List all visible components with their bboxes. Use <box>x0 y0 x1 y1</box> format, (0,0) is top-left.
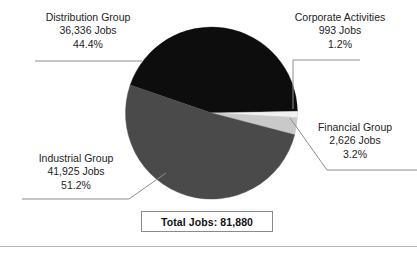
label-corporate-activities: Corporate Activities 993 Jobs 1.2% <box>272 11 408 51</box>
total-jobs-text: Total Jobs: 81,880 <box>161 216 253 228</box>
bottom-divider <box>0 246 417 247</box>
label-industrial-group: Industrial Group 41,925 Jobs 51.2% <box>12 152 140 192</box>
label-distribution-name: Distribution Group <box>18 11 158 24</box>
label-industrial-name: Industrial Group <box>12 152 140 165</box>
label-corporate-percent: 1.2% <box>272 38 408 51</box>
label-distribution-group: Distribution Group 36,336 Jobs 44.4% <box>18 11 158 51</box>
leader-line-corporate <box>293 60 360 109</box>
label-corporate-jobs: 993 Jobs <box>272 24 408 37</box>
label-distribution-jobs: 36,336 Jobs <box>18 24 158 37</box>
total-jobs-box: Total Jobs: 81,880 <box>141 211 273 232</box>
pie-chart-figure: Distribution Group 36,336 Jobs 44.4% Cor… <box>0 0 417 254</box>
label-financial-group: Financial Group 2,626 Jobs 3.2% <box>296 121 414 161</box>
label-distribution-percent: 44.4% <box>18 38 158 51</box>
label-financial-name: Financial Group <box>296 121 414 134</box>
label-industrial-percent: 51.2% <box>12 179 140 192</box>
label-industrial-jobs: 41,925 Jobs <box>12 165 140 178</box>
pie-slices <box>125 27 297 199</box>
label-corporate-name: Corporate Activities <box>272 11 408 24</box>
label-financial-jobs: 2,626 Jobs <box>296 134 414 147</box>
label-financial-percent: 3.2% <box>296 148 414 161</box>
